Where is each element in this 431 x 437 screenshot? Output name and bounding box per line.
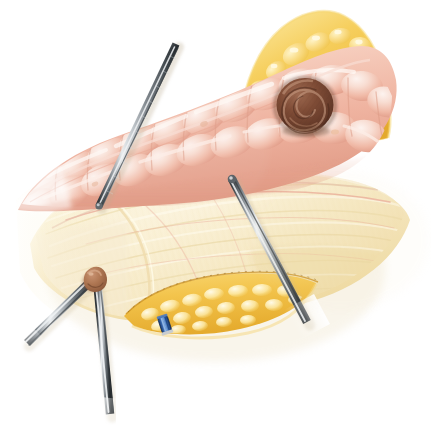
- illustration-canvas: Laparoscopic colon mobilization with tum…: [0, 0, 431, 437]
- shaft-fade: [92, 396, 127, 431]
- surgical-illustration: Laparoscopic colon mobilization with tum…: [0, 0, 431, 437]
